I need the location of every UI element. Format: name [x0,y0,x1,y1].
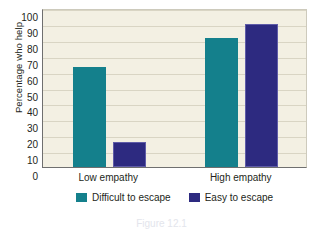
plot-area [42,9,307,168]
caption-fragment: Figure 12.1 [0,218,323,229]
legend: Difficult to escapeEasy to escape [42,192,307,203]
legend-label: Easy to escape [205,192,273,203]
legend-swatch-icon [76,193,87,202]
legend-swatch-icon [189,193,200,202]
y-tick-label-0: 0 [14,172,38,182]
y-tick-label-30: 30 [14,124,38,134]
category-label-low-empathy: Low empathy [42,172,175,184]
bar-high-empathy-difficult-to-escape [205,38,238,167]
y-tick-label-40: 40 [14,108,38,118]
x-axis-category-labels: Low empathyHigh empathy [42,172,307,186]
y-tick-label-80: 80 [14,45,38,55]
y-tick-label-20: 20 [14,140,38,150]
legend-entry-difficult-to-escape: Difficult to escape [76,192,171,203]
y-tick-label-50: 50 [14,93,38,103]
y-tick-label-60: 60 [14,77,38,87]
bar-chart-figure: Percentage who help 10090807060504030201… [0,0,323,232]
y-tick-label-70: 70 [14,61,38,71]
y-axis-tick-labels: 1009080706050403020100 [14,9,38,168]
legend-label: Difficult to escape [92,192,171,203]
bar-low-empathy-difficult-to-escape [73,67,106,167]
y-tick-label-100: 100 [14,13,38,23]
bar-high-empathy-easy-to-escape [245,24,278,167]
bar-low-empathy-easy-to-escape [113,142,146,167]
category-label-high-empathy: High empathy [175,172,308,184]
legend-entry-easy-to-escape: Easy to escape [189,192,273,203]
bars-layer [43,10,306,167]
y-tick-label-90: 90 [14,29,38,39]
y-tick-label-10: 10 [14,156,38,166]
